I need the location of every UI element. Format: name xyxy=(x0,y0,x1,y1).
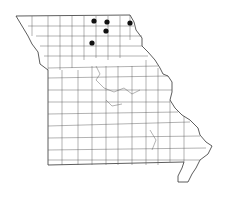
occurrence-dot xyxy=(104,19,109,24)
occurrence-dot xyxy=(91,18,96,23)
occurrence-dot xyxy=(127,20,132,25)
occurrence-dot xyxy=(103,28,108,33)
occurrence-dot xyxy=(89,40,94,45)
missouri-county-map xyxy=(0,0,229,199)
state-outline xyxy=(16,15,212,182)
